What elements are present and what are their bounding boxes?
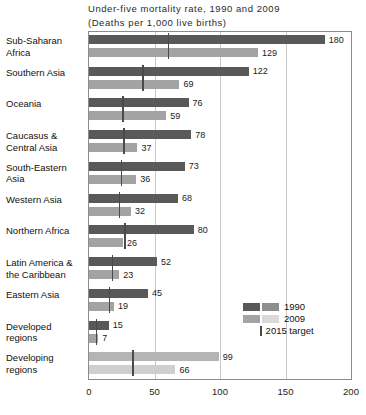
bar-1990 (89, 352, 219, 361)
bar-2009 (89, 238, 123, 247)
bar-value-2009: 32 (135, 207, 145, 216)
bar-value-2009: 26 (127, 239, 137, 248)
bar-value-2009: 69 (183, 80, 193, 89)
bar-value-1990: 15 (113, 321, 123, 330)
bar-1990 (89, 225, 194, 234)
legend-item-2009: 2009 (243, 309, 314, 320)
bar-value-1990: 45 (152, 289, 162, 298)
category-label: Eastern Asia (6, 289, 86, 301)
category-label: Developing regions (6, 352, 86, 375)
category-label: Oceania (6, 98, 86, 110)
bar-value-1990: 78 (195, 131, 205, 140)
chart-title-block: Under-five mortality rate, 1990 and 2009… (88, 2, 360, 29)
bar-value-2009: 59 (170, 112, 180, 121)
bar-value-1990: 68 (182, 194, 192, 203)
bar-1990 (89, 162, 185, 171)
bar-1990 (89, 289, 148, 298)
target-tick-2015 (132, 350, 134, 376)
target-tick-2015 (124, 223, 126, 249)
target-tick-2015 (109, 287, 111, 313)
bar-2009 (89, 143, 137, 152)
target-tick-2015 (112, 255, 114, 281)
target-tick-2015 (123, 128, 125, 154)
x-tick-label: 200 (331, 386, 366, 397)
bar-value-2009: 19 (118, 302, 128, 311)
bar-2009 (89, 80, 179, 89)
category-label: Latin America & the Caribbean (6, 257, 86, 280)
bar-value-2009: 23 (123, 271, 133, 280)
category-label: Southern Asia (6, 67, 86, 79)
bar-value-1990: 73 (189, 162, 199, 171)
x-tick-label: 100 (200, 386, 240, 397)
legend-label-2015-target: 2015 target (266, 325, 314, 336)
x-tick-label: 0 (69, 386, 109, 397)
chart-title: Under-five mortality rate, 1990 and 2009 (88, 2, 360, 16)
legend-item-1990: 1990 (243, 297, 314, 308)
bar-value-2009: 129 (262, 49, 277, 58)
x-tick-label: 50 (135, 386, 175, 397)
target-tick-2015 (142, 65, 144, 91)
bar-1990 (89, 67, 249, 76)
legend-item-2015-target: 2015 target (243, 321, 314, 332)
bar-value-1990: 76 (193, 99, 203, 108)
bar-1990 (89, 98, 189, 107)
bar-2009 (89, 175, 136, 184)
target-tick-2015 (96, 319, 98, 345)
bar-value-2009: 7 (102, 334, 107, 343)
x-tick-label: 150 (266, 386, 306, 397)
bar-value-2009: 37 (141, 144, 151, 153)
bar-value-2009: 66 (179, 366, 189, 375)
bar-2009 (89, 207, 131, 216)
category-label: Developed regions (6, 321, 86, 344)
target-tick-2015 (121, 160, 123, 186)
chart-legend: 1990 2009 2015 target (243, 297, 314, 333)
legend-tick-icon (260, 326, 262, 336)
bar-value-2009: 36 (140, 175, 150, 184)
bar-1990 (89, 194, 178, 203)
category-label: Western Asia (6, 194, 86, 206)
bar-1990 (89, 130, 191, 139)
bar-value-1990: 52 (161, 258, 171, 267)
gridline-100 (220, 32, 221, 379)
category-label: Northern Africa (6, 225, 86, 237)
target-tick-2015 (122, 96, 124, 122)
target-tick-2015 (168, 33, 170, 59)
bar-2009 (89, 111, 166, 120)
chart-container: Under-five mortality rate, 1990 and 2009… (0, 0, 366, 415)
category-label: Caucasus & Central Asia (6, 130, 86, 153)
bar-value-1990: 80 (198, 226, 208, 235)
bar-2009 (89, 270, 119, 279)
bar-value-1990: 122 (253, 67, 268, 76)
bar-1990 (89, 35, 325, 44)
bar-1990 (89, 321, 109, 330)
bar-1990 (89, 257, 157, 266)
bar-value-1990: 180 (329, 36, 344, 45)
category-label: Sub-Saharan Africa (6, 35, 86, 58)
chart-subtitle: (Deaths per 1,000 live births) (88, 16, 360, 30)
bar-value-1990: 99 (223, 353, 233, 362)
bar-2009 (89, 48, 258, 57)
target-tick-2015 (119, 192, 121, 218)
category-label: South-Eastern Asia (6, 162, 86, 185)
